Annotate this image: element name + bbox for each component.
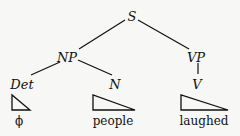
node-vp: VP [187,50,205,65]
edge-np-det [31,62,60,75]
node-np: NP [56,50,77,65]
edge-np-n [78,60,112,75]
node-s: S [128,9,137,24]
node-n: N [108,77,121,92]
syntax-tree: S NP VP Det N V ϕ people laughed [0,0,240,136]
leaf-v: laughed [180,114,229,128]
node-v: V [192,77,203,92]
leaf-n: people [93,114,134,128]
roof-triangle-det [12,95,30,110]
roof-triangle-v [181,95,228,110]
edge-s-np [79,20,125,49]
roof-triangle-n [93,95,135,110]
leaf-det: ϕ [15,114,23,128]
edge-s-vp [138,20,189,49]
node-det: Det [9,77,34,92]
